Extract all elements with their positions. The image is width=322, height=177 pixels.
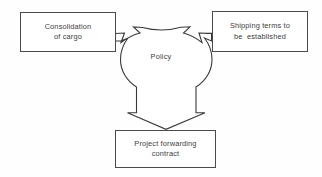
node-consolidation-of-cargo[interactable]: Consolidation of cargo [20,12,116,52]
node-project-forwarding-contract[interactable]: Project forwarding contract [115,130,216,168]
node-shipping-line-2: be established [234,32,286,43]
node-project-line-1: Project forwarding [134,139,196,150]
policy-hub-three-arrow-shape [116,27,213,130]
node-shipping-terms[interactable]: Shipping terms to be established [212,11,308,52]
node-project-line-2: contract [152,149,180,160]
node-shipping-line-1: Shipping terms to [230,21,290,32]
node-consolidation-line-2: of cargo [54,32,82,43]
policy-hub-label: Policy [136,52,186,62]
node-consolidation-line-1: Consolidation [45,22,92,33]
diagram-canvas: Consolidation of cargo Shipping terms to… [0,0,322,177]
